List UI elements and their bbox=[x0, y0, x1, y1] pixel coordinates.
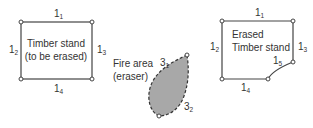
vertex-node bbox=[266, 77, 270, 81]
vertex-node bbox=[157, 114, 161, 118]
edge-label-notch: 15 bbox=[273, 55, 283, 67]
vertex-node bbox=[220, 77, 224, 81]
edge-label-top: 11 bbox=[255, 7, 265, 19]
edge-label-left: 12 bbox=[9, 44, 19, 56]
edge-label-right: 13 bbox=[97, 44, 107, 56]
edge-label-upper: 31 bbox=[160, 57, 170, 69]
edge-label-lower: 32 bbox=[184, 101, 194, 113]
vertex-node bbox=[185, 53, 189, 57]
vertex-node bbox=[291, 19, 295, 23]
erased-title-line1: Erased bbox=[232, 29, 264, 40]
edge-label-left: 12 bbox=[210, 41, 220, 53]
left-title-line1: Timber stand bbox=[27, 38, 85, 49]
left-title-line2: (to be erased) bbox=[25, 51, 87, 62]
edge-label-bottom: 14 bbox=[54, 83, 64, 95]
fire-title-line1: Fire area bbox=[113, 58, 153, 69]
diagram-canvas: Timber stand (to be erased) 11 12 13 14 … bbox=[0, 0, 313, 128]
vertex-node bbox=[90, 77, 94, 81]
edge-label-bottom: 14 bbox=[241, 82, 251, 94]
vertex-node bbox=[220, 19, 224, 23]
erased-title-line2: Timber stand bbox=[232, 42, 290, 53]
vertex-node bbox=[90, 20, 94, 24]
edge-label-top: 11 bbox=[54, 8, 64, 20]
edge-label-right: 13 bbox=[298, 41, 308, 53]
vertex-node bbox=[291, 60, 295, 64]
vertex-node bbox=[19, 20, 23, 24]
vertex-node bbox=[19, 77, 23, 81]
fire-area-eraser: Fire area (eraser) 31 32 bbox=[113, 53, 194, 118]
fire-title-line2: (eraser) bbox=[113, 71, 148, 82]
erased-timber-stand: Erased Timber stand 11 12 13 14 15 bbox=[210, 7, 308, 94]
left-timber-stand: Timber stand (to be erased) 11 12 13 14 bbox=[9, 8, 107, 95]
